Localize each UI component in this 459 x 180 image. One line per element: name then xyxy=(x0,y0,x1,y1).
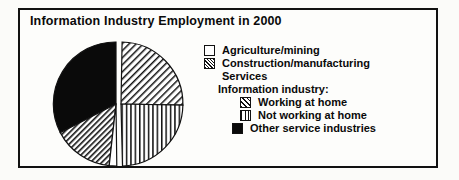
legend-heading-information-industry: Information industry: xyxy=(218,83,329,96)
page-title: Information Industry Employment in 2000 xyxy=(30,14,282,28)
legend-swatch-vertical-stripe-icon xyxy=(240,110,251,121)
legend-item-not-working-at-home: Not working at home xyxy=(204,109,430,122)
legend-label: Agriculture/mining xyxy=(222,44,320,57)
pie-slice-group-left xyxy=(53,42,116,166)
legend-item-services: Services xyxy=(204,70,430,83)
legend-heading-services: Services xyxy=(222,70,267,83)
legend-swatch-empty-square-icon xyxy=(204,45,215,56)
legend-item-information-industry: Information industry: xyxy=(204,83,430,96)
legend-swatch-none-icon xyxy=(204,71,215,82)
pie-slice-group-information-industry xyxy=(121,42,183,166)
legend-item-agriculture-mining: Agriculture/mining xyxy=(204,44,430,57)
pie-slice-not-working-at-home xyxy=(121,104,183,166)
legend-label: Construction/manufacturing xyxy=(222,57,370,70)
legend-label: Not working at home xyxy=(258,109,367,122)
legend-item-other-service-industries: Other service industries xyxy=(204,122,430,135)
chart-legend: Agriculture/mining Construction/manufact… xyxy=(204,44,430,135)
legend-item-working-at-home: Working at home xyxy=(204,96,430,109)
legend-item-construction-manufacturing: Construction/manufacturing xyxy=(204,57,430,70)
legend-swatch-solid-black-icon xyxy=(232,123,243,134)
figure-root: Information Industry Employment in 2000 xyxy=(0,0,459,180)
legend-swatch-diagonal-hatch-icon xyxy=(204,58,215,69)
legend-label: Other service industries xyxy=(250,122,376,135)
pie-chart-svg xyxy=(46,36,192,172)
legend-swatch-diagonal-hatch-open-icon xyxy=(240,97,251,108)
legend-label: Working at home xyxy=(258,96,347,109)
pie-chart xyxy=(46,36,192,172)
pie-slice-working-at-home xyxy=(121,42,183,105)
